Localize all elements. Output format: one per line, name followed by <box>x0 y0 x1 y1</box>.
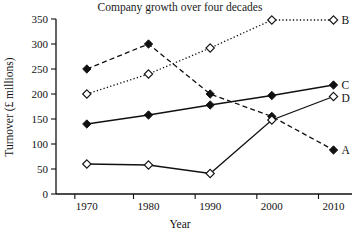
chart-title: Company growth over four decades <box>98 1 263 14</box>
data-point-marker <box>83 160 91 168</box>
data-point-marker <box>83 65 91 73</box>
y-tick-label: 350 <box>32 13 49 25</box>
series-layer <box>83 16 338 178</box>
data-point-marker <box>206 44 214 52</box>
series-a <box>83 40 338 154</box>
data-point-marker <box>329 146 337 154</box>
series-b <box>83 16 338 98</box>
data-point-marker <box>144 40 152 48</box>
x-tick-label: 1970 <box>76 200 99 212</box>
x-axis-ticks: 19701980199020002010 <box>75 194 345 212</box>
data-point-marker <box>83 120 91 128</box>
y-tick-label: 0 <box>43 188 49 200</box>
data-point-marker <box>329 92 337 100</box>
y-tick-label: 100 <box>32 138 49 150</box>
data-point-marker <box>268 91 276 99</box>
chart-canvas: Company growth over four decades Turnove… <box>0 0 360 232</box>
data-point-marker <box>268 16 276 24</box>
series-label-c: C <box>342 79 350 91</box>
data-point-marker <box>144 70 152 78</box>
y-tick-label: 250 <box>32 63 49 75</box>
y-tick-label: 200 <box>32 88 49 100</box>
series-end-labels: ABCD <box>342 14 351 156</box>
data-point-marker <box>329 81 337 89</box>
series-label-b: B <box>342 14 350 26</box>
y-tick-label: 150 <box>32 113 49 125</box>
x-tick-label: 2010 <box>323 200 346 212</box>
series-label-a: A <box>342 144 351 156</box>
y-tick-label: 300 <box>32 38 49 50</box>
x-tick-label: 2000 <box>261 200 284 212</box>
y-axis-title: Turnover (£ millions) <box>3 57 16 156</box>
x-tick-label: 1980 <box>138 200 161 212</box>
series-c <box>83 81 338 128</box>
line-chart: Company growth over four decades Turnove… <box>0 0 360 232</box>
y-tick-label: 50 <box>37 163 49 175</box>
series-line <box>87 20 334 94</box>
data-point-marker <box>83 90 91 98</box>
x-axis-title: Year <box>169 218 190 230</box>
y-axis-ticks: 050100150200250300350 <box>32 13 57 200</box>
x-tick-label: 1990 <box>199 200 222 212</box>
data-point-marker <box>144 111 152 119</box>
data-point-marker <box>206 101 214 109</box>
data-point-marker <box>329 16 337 24</box>
data-point-marker <box>144 161 152 169</box>
series-label-d: D <box>342 92 350 104</box>
